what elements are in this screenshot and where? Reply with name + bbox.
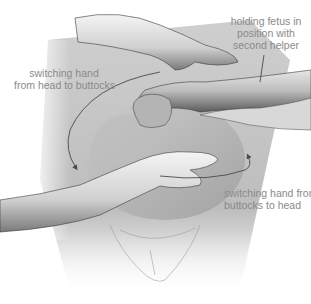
fetus-hand bbox=[133, 94, 172, 127]
label-switch-head-to-buttocks: switching hand from head to buttocks bbox=[14, 67, 114, 91]
label-holding-fetus: holding fetus in position with second he… bbox=[218, 15, 311, 51]
label-line: second helper bbox=[218, 39, 311, 51]
label-switch-buttocks-to-head: switching hand from buttocks to head bbox=[224, 187, 311, 211]
label-line: buttocks to head bbox=[224, 199, 311, 211]
label-line: from head to buttocks bbox=[14, 79, 114, 91]
label-line: holding fetus in bbox=[218, 15, 311, 27]
label-line: switching hand bbox=[14, 67, 114, 79]
label-line: position with bbox=[218, 27, 311, 39]
label-line: switching hand from bbox=[224, 187, 311, 199]
